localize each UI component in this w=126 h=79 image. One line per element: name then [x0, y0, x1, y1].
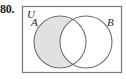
- set-a-label: A: [30, 16, 38, 28]
- venn-diagram-figure: U A B: [20, 4, 124, 76]
- set-b-label: B: [107, 16, 114, 28]
- venn-diagram-svg: U A B: [20, 4, 124, 76]
- problem-number: 80.: [0, 2, 14, 16]
- figure-page: 80.: [0, 0, 126, 79]
